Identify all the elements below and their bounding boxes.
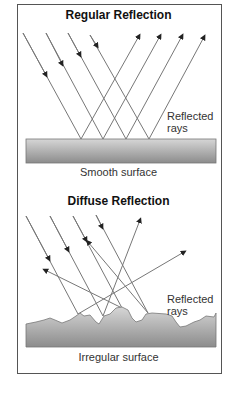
diffuse-incident-rays [26, 215, 148, 316]
diffuse-title: Diffuse Reflection [0, 194, 237, 208]
smooth-surface-label: Smooth surface [0, 166, 237, 178]
smooth-surface [26, 139, 216, 163]
regular-incident-rays [23, 33, 149, 139]
diffuse-reflected-rays [45, 220, 184, 316]
diffuse-reflected-label: Reflected rays [167, 293, 213, 317]
irregular-surface-label: Irregular surface [0, 351, 237, 363]
regular-reflected-label: Reflected rays [167, 110, 213, 134]
regular-title: Regular Reflection [0, 8, 237, 22]
